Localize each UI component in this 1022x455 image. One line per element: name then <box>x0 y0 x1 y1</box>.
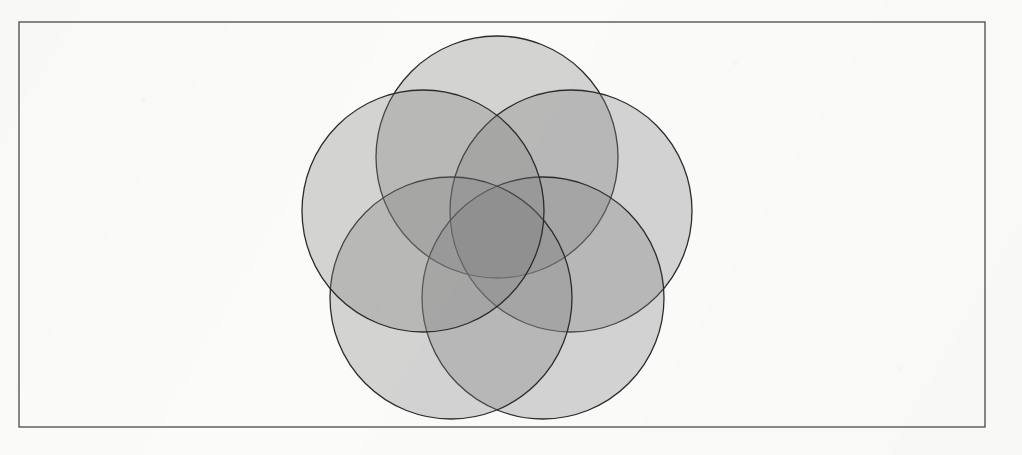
five-circle-rosette <box>302 36 692 419</box>
circle-upper-left[interactable] <box>302 90 544 332</box>
figure-page: Five equal overlapping circles arranged … <box>0 0 1022 455</box>
figure-canvas <box>0 0 1022 455</box>
